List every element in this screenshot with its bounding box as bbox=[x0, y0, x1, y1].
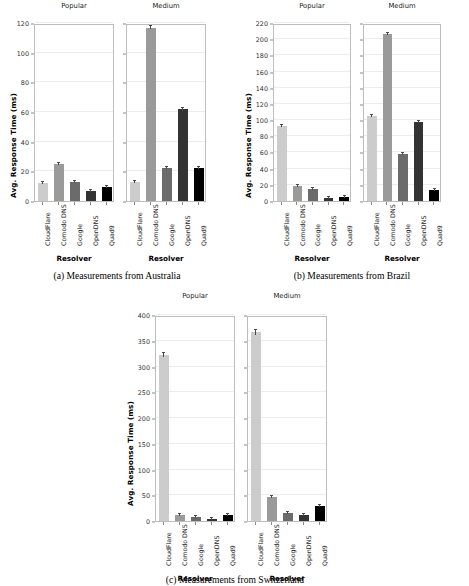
x-tick-mark bbox=[433, 202, 434, 205]
y-tick-mark bbox=[270, 137, 273, 138]
panels-australia: Avg. Response Time (ms)Popular0204060801… bbox=[0, 2, 234, 290]
bar-comodo-dns bbox=[54, 164, 64, 201]
grid-line bbox=[274, 38, 350, 39]
y-tick-mark bbox=[152, 419, 155, 420]
error-bar-cap bbox=[194, 515, 197, 516]
y-tick-mark bbox=[123, 83, 126, 84]
x-tick-label: CloudFlare bbox=[373, 212, 380, 246]
y-tick-label: 20 bbox=[21, 168, 29, 176]
x-tick-label: OpenDNS bbox=[330, 216, 337, 246]
error-bar bbox=[271, 496, 272, 498]
x-tick-mark bbox=[402, 202, 403, 205]
x-tick-mark bbox=[163, 522, 164, 525]
x-tick-mark bbox=[134, 202, 135, 205]
x-tick-mark bbox=[198, 202, 199, 205]
y-tick-label: 200 bbox=[256, 36, 268, 44]
y-tick-mark bbox=[360, 202, 363, 203]
figure-switzerland: Avg. Response Time (ms)Popular0501001502… bbox=[117, 292, 353, 584]
x-tick-mark bbox=[106, 202, 107, 205]
error-bar bbox=[371, 115, 372, 117]
error-bar bbox=[402, 153, 403, 155]
subplot-a-medium: MediumCloudFlareComodo DNSGoogleOpenDNSQ… bbox=[126, 2, 206, 282]
subplot-c-popular: Popular050100150200250300350400CloudFlar… bbox=[155, 292, 235, 586]
error-bar-cap bbox=[105, 185, 108, 186]
grid-line bbox=[156, 314, 234, 315]
error-bar bbox=[287, 512, 288, 514]
y-tick-mark bbox=[360, 153, 363, 154]
subplot-title: Medium bbox=[126, 2, 206, 10]
y-tick-mark bbox=[360, 40, 363, 41]
y-tick-mark bbox=[270, 88, 273, 89]
x-tick-label: Quad9 bbox=[436, 225, 443, 246]
y-tick-mark bbox=[244, 470, 247, 471]
x-tick-mark bbox=[287, 522, 288, 525]
grid-line bbox=[364, 22, 440, 23]
bar-comodo-dns bbox=[383, 34, 393, 201]
x-tick-mark bbox=[211, 522, 212, 525]
x-tick-label: Google bbox=[289, 544, 296, 566]
grid-line bbox=[274, 119, 350, 120]
x-tick-mark bbox=[42, 202, 43, 205]
grid-line bbox=[274, 103, 350, 104]
grid-line bbox=[248, 314, 326, 315]
error-bar-cap bbox=[286, 511, 289, 512]
error-bar bbox=[328, 197, 329, 199]
grid-line bbox=[364, 87, 440, 88]
x-tick-mark bbox=[371, 202, 372, 205]
y-tick-mark bbox=[244, 419, 247, 420]
error-bar bbox=[434, 189, 435, 191]
bar-comodo-dns bbox=[175, 515, 185, 521]
grid-line bbox=[35, 22, 113, 23]
bar-cloudflare bbox=[251, 332, 261, 521]
x-tick-mark bbox=[179, 522, 180, 525]
y-tick-mark bbox=[152, 341, 155, 342]
bar-quad9 bbox=[102, 187, 112, 201]
y-tick-mark bbox=[152, 367, 155, 368]
y-tick-label: 100 bbox=[17, 50, 29, 58]
error-bar bbox=[106, 186, 107, 188]
y-tick-mark bbox=[31, 142, 34, 143]
bar-quad9 bbox=[223, 515, 233, 521]
y-tick-label: 0 bbox=[25, 198, 29, 206]
x-tick-label: CloudFlare bbox=[283, 212, 290, 246]
error-bar bbox=[166, 167, 167, 169]
y-tick-label: 300 bbox=[138, 364, 150, 372]
y-tick-mark bbox=[123, 113, 126, 114]
bar-comodo-dns bbox=[293, 186, 303, 201]
grid-line bbox=[364, 103, 440, 104]
x-tick-mark bbox=[418, 202, 419, 205]
y-tick-mark bbox=[360, 104, 363, 105]
x-tick-mark bbox=[328, 202, 329, 205]
y-tick-mark bbox=[270, 185, 273, 186]
x-tick-mark bbox=[74, 202, 75, 205]
bar-google bbox=[398, 154, 408, 201]
y-tick-mark bbox=[360, 169, 363, 170]
y-tick-mark bbox=[244, 367, 247, 368]
error-bar bbox=[198, 167, 199, 169]
error-bar-cap bbox=[433, 188, 436, 189]
error-bar-cap bbox=[57, 162, 60, 163]
panels-brazil: Avg. Response Time (ms)Popular0204060801… bbox=[235, 2, 469, 290]
y-tick-mark bbox=[270, 202, 273, 203]
y-tick-mark bbox=[31, 202, 34, 203]
y-tick-mark bbox=[123, 53, 126, 54]
y-axis-label: Avg. Response Time (ms) bbox=[9, 93, 18, 198]
error-bar bbox=[227, 514, 228, 516]
x-tick-label: Quad9 bbox=[108, 225, 115, 246]
y-tick-mark bbox=[270, 56, 273, 57]
figure-brazil: Avg. Response Time (ms)Popular0204060801… bbox=[235, 2, 469, 290]
x-tick-mark bbox=[296, 202, 297, 205]
y-tick-label: 100 bbox=[256, 117, 268, 125]
grid-line bbox=[35, 111, 113, 112]
error-bar-cap bbox=[343, 195, 346, 196]
y-tick-mark bbox=[270, 104, 273, 105]
bar-opendns bbox=[178, 109, 188, 201]
y-tick-mark bbox=[360, 24, 363, 25]
y-tick-label: 40 bbox=[21, 139, 29, 147]
x-tick-label: Google bbox=[168, 224, 175, 246]
caption-switzerland: (c) Measurements from Switzerland bbox=[117, 574, 353, 585]
grid-line bbox=[127, 81, 205, 82]
y-tick-mark bbox=[31, 113, 34, 114]
y-tick-mark bbox=[152, 316, 155, 317]
error-bar bbox=[211, 518, 212, 520]
